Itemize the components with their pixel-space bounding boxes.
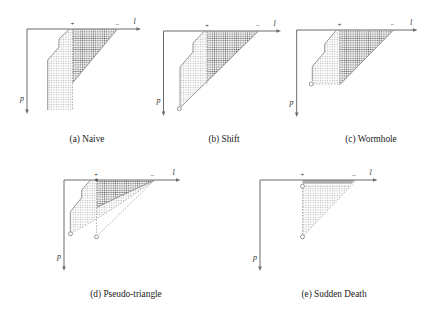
diagram-shift: + − l p (b) Shift — [156, 19, 282, 145]
shift-p-axis-label: p — [156, 96, 161, 105]
pseudo-triangle-plus-label: + — [94, 171, 98, 179]
caption-shift: (b) Shift — [208, 134, 240, 145]
diagram-pseudo-triangle: + − l p (d) Pseudo-triangle — [56, 168, 181, 300]
shift-v-axis-arrowhead-icon — [162, 112, 166, 117]
diagram-naive: + − l p (a) Naive — [19, 17, 141, 145]
sudden-death-v-axis-arrowhead-icon — [258, 267, 262, 272]
naive-h-axis-arrowhead-icon — [137, 27, 142, 31]
pseudo-triangle-l-axis-label: l — [173, 168, 176, 177]
wormhole-v-axis-arrowhead-icon — [295, 113, 299, 118]
figure-canvas: + − l p (a) Naive + − l p (b) Shift — [0, 0, 435, 315]
sudden-death-dark-strip — [303, 180, 356, 184]
sudden-death-top-marker — [301, 184, 305, 188]
shift-h-axis-arrowhead-icon — [277, 29, 282, 33]
shift-minus-label: − — [256, 22, 260, 30]
naive-light-region — [48, 30, 73, 111]
sudden-death-bottom-marker — [301, 235, 305, 239]
caption-sudden-death: (e) Sudden Death — [301, 289, 366, 300]
caption-naive: (a) Naive — [70, 134, 105, 145]
sudden-death-plus-label: + — [301, 171, 305, 179]
naive-minus-label: − — [116, 21, 120, 29]
figure-svg: + − l p (a) Naive + − l p (b) Shift — [0, 0, 435, 315]
wormhole-minus-label: − — [391, 21, 395, 29]
sudden-death-h-axis-arrowhead-icon — [373, 178, 378, 182]
pseudo-triangle-v-axis-arrowhead-icon — [62, 267, 66, 272]
diagram-wormhole: + − l p (c) Wormhole — [289, 18, 418, 145]
wormhole-light-region — [312, 31, 339, 84]
diagram-sudden-death: + − l p (e) Sudden Death — [252, 168, 378, 300]
pseudo-triangle-minus-label: − — [151, 172, 155, 180]
naive-p-axis-label: p — [19, 94, 24, 103]
shift-l-axis-label: l — [274, 19, 277, 28]
sudden-death-l-axis-label: l — [370, 168, 373, 177]
wormhole-plus-label: + — [338, 21, 342, 29]
caption-wormhole: (c) Wormhole — [345, 134, 397, 145]
wormhole-bottom-left-marker — [309, 82, 313, 86]
pseudo-triangle-h-axis-arrowhead-icon — [176, 178, 181, 182]
naive-v-axis-arrowhead-icon — [25, 110, 29, 115]
naive-plus-label: + — [71, 20, 75, 28]
wormhole-h-axis-arrowhead-icon — [413, 28, 418, 32]
naive-l-axis-label: l — [134, 17, 137, 26]
shift-bottom-vertex-marker — [177, 107, 181, 111]
wormhole-l-axis-label: l — [410, 18, 413, 27]
wormhole-p-axis-label: p — [289, 98, 294, 107]
caption-pseudo-triangle: (d) Pseudo-triangle — [90, 289, 162, 300]
pseudo-triangle-plus-dot — [95, 179, 98, 182]
pseudo-triangle-left-marker — [69, 232, 73, 236]
sudden-death-light-region — [303, 186, 351, 237]
shift-plus-label: + — [205, 22, 209, 30]
pseudo-triangle-p-axis-label: p — [56, 252, 61, 261]
pseudo-triangle-bottom-marker — [95, 235, 99, 239]
sudden-death-p-axis-label: p — [252, 253, 257, 262]
sudden-death-minus-label: − — [352, 172, 356, 180]
